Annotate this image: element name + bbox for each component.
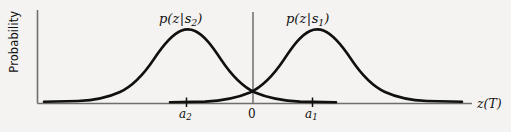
y-axis-label: Probability [9, 5, 21, 79]
curve1-label-base: p(z [286, 11, 306, 26]
x-tick-label-a2: a2 [179, 108, 192, 122]
curve1-label-close: ) [324, 11, 329, 26]
curve-p-z-given-s2 [44, 30, 336, 103]
curve-label-p-z-given-s2: p(z|s2) [159, 12, 202, 27]
xlabel-variable: z [477, 96, 484, 111]
curve2-label-close: ) [197, 11, 202, 26]
curve-label-p-z-given-s1: p(z|s1) [286, 12, 329, 27]
x-tick-label-zero: 0 [248, 108, 256, 120]
tick-a2-subscript: 2 [186, 112, 192, 122]
x-tick-label-a1: a1 [305, 108, 318, 122]
x-axis-label: z(T) [477, 98, 502, 111]
curve-p-z-given-s1 [170, 30, 462, 103]
tick-a1-subscript: 1 [312, 112, 318, 122]
xlabel-argument: T [488, 96, 496, 111]
probability-distribution-figure: Probability p(z|s2) p(z|s1) a2 0 a1 z(T) [0, 0, 511, 132]
curve2-label-base: p(z [159, 11, 179, 26]
xlabel-close-paren: ) [497, 96, 502, 111]
